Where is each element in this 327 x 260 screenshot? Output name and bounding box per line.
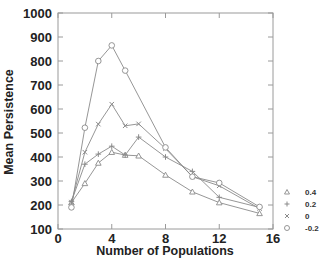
y-tick-label: 1000 xyxy=(23,6,52,21)
legend-item: 0.2 xyxy=(285,200,317,209)
plus-marker-icon xyxy=(285,202,290,207)
circle-marker-icon xyxy=(285,226,290,231)
circle-marker-icon xyxy=(109,43,115,49)
circle-marker-icon xyxy=(163,145,169,151)
y-tick-label: 900 xyxy=(30,30,52,45)
x-tick-label: 0 xyxy=(54,231,61,246)
y-tick-label: 600 xyxy=(30,102,52,117)
legend-label: -0.2 xyxy=(305,224,319,233)
y-tick-label: 300 xyxy=(30,174,52,189)
legend-label: 0.2 xyxy=(305,200,317,209)
triangle-marker-icon xyxy=(216,200,222,205)
cross-marker-icon xyxy=(285,214,289,218)
triangle-marker-icon xyxy=(109,149,115,154)
y-tick-label: 100 xyxy=(30,222,52,237)
triangle-marker-icon xyxy=(285,190,290,195)
series-line xyxy=(71,152,259,213)
legend-label: 0.4 xyxy=(305,188,317,197)
triangle-marker-icon xyxy=(163,172,169,177)
circle-marker-icon xyxy=(216,180,222,186)
y-axis-title: Mean Persistence xyxy=(2,69,16,175)
legend-label: 0 xyxy=(305,212,310,221)
series-line xyxy=(71,45,259,207)
circle-marker-icon xyxy=(82,125,88,131)
series-group xyxy=(69,43,263,216)
x-axis-title: Number of Populations xyxy=(96,244,234,258)
plus-marker-icon xyxy=(109,143,115,149)
legend-item: 0.4 xyxy=(285,188,317,197)
line-chart: 10020030040050060070080090010000481216 0… xyxy=(0,0,327,260)
y-tick-label: 500 xyxy=(30,126,52,141)
circle-marker-icon xyxy=(69,205,75,211)
y-tick-label: 200 xyxy=(30,198,52,213)
y-tick-label: 800 xyxy=(30,54,52,69)
y-tick-label: 400 xyxy=(30,150,52,165)
circle-marker-icon xyxy=(122,68,128,74)
circle-marker-icon xyxy=(190,174,196,180)
circle-marker-icon xyxy=(96,58,102,64)
legend: 0.40.20-0.2 xyxy=(285,188,320,233)
legend-item: 0 xyxy=(285,212,310,221)
cross-marker-icon xyxy=(96,122,100,126)
circle-marker-icon xyxy=(257,204,263,210)
legend-item: -0.2 xyxy=(285,224,320,233)
x-tick-label: 16 xyxy=(266,231,280,246)
y-tick-label: 700 xyxy=(30,78,52,93)
triangle-marker-icon xyxy=(190,189,196,194)
triangle-marker-icon xyxy=(82,181,88,186)
axes: 10020030040050060070080090010000481216 xyxy=(23,6,280,247)
plot-frame xyxy=(58,13,273,229)
cross-marker-icon xyxy=(110,102,114,106)
